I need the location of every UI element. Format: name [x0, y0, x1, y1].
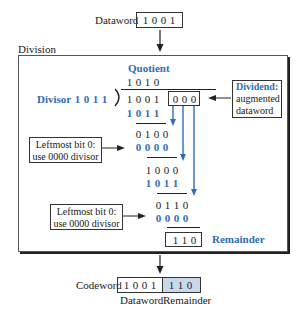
codeword-bit: 0: [131, 279, 140, 292]
codeword-label: Codeword: [76, 279, 122, 292]
remainder-bit: 0: [189, 234, 198, 246]
remainder-bit: 1: [180, 234, 189, 246]
codeword-data-box: 1 0 0 1: [117, 277, 163, 293]
codeword-remainder-box: 1 1 0: [162, 277, 201, 293]
codeword-bit: 1: [167, 279, 176, 292]
remainder-caption: Remainder: [163, 294, 211, 307]
codeword-bit: 1: [122, 279, 131, 292]
remainder-bit: 1: [171, 234, 180, 246]
remainder-label: Remainder: [212, 233, 265, 246]
codeword-bit: 1: [176, 279, 185, 292]
codeword-bit: 1: [149, 279, 158, 292]
codeword-bit: 0: [140, 279, 149, 292]
dataword-caption: Dataword: [120, 294, 163, 307]
note-2-arrow: [0, 0, 301, 317]
remainder-box: 1 1 0: [165, 232, 202, 247]
codeword-bit: 0: [185, 279, 194, 292]
